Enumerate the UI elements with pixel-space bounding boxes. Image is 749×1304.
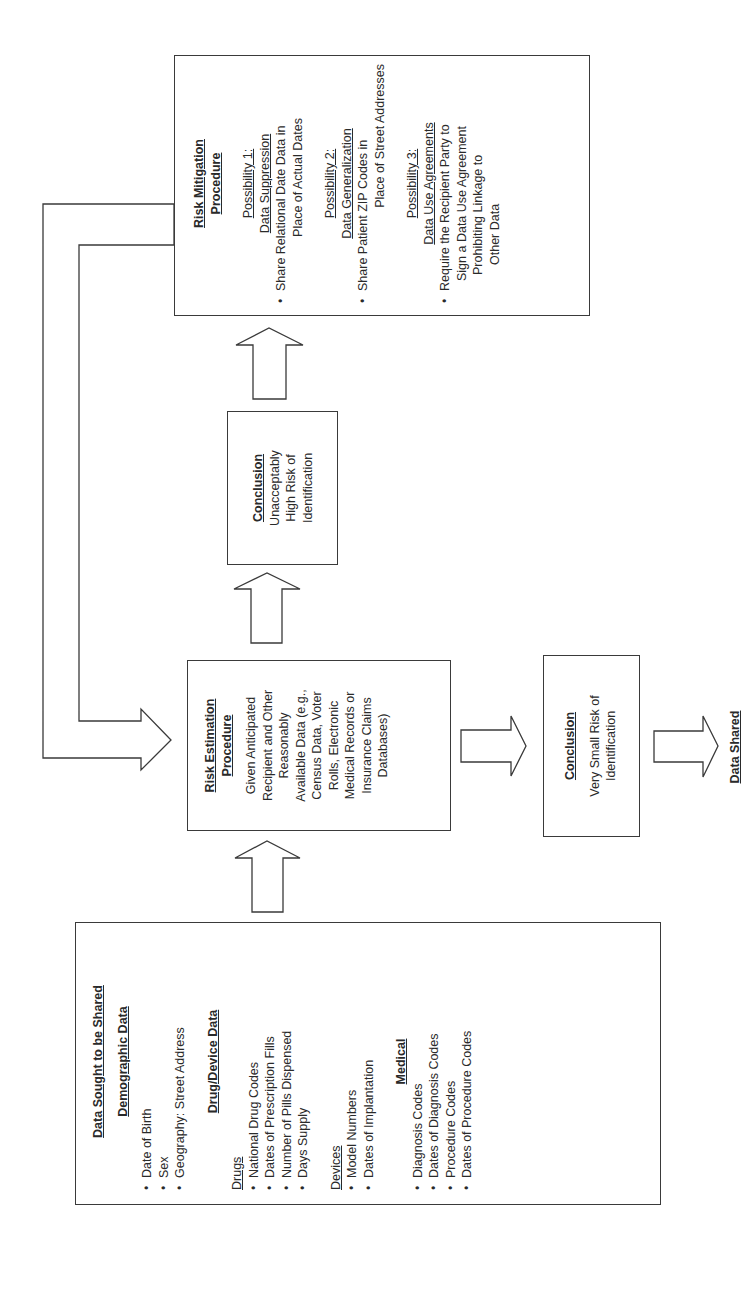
list-item: Sex <box>156 933 173 1190</box>
list-item: Dates of Implantation <box>361 933 378 1190</box>
risk-estimation-line: Databases) <box>375 667 392 824</box>
data-shared-label: Data Shared <box>728 697 742 797</box>
list-item: Number of Pills Dispensed <box>279 933 296 1190</box>
conclusion-high-risk-box: Conclusion Unacceptably High Risk of Ide… <box>227 411 338 565</box>
arrow-high-to-mitigation <box>236 328 303 399</box>
risk-mitigation-title-2: Procedure <box>208 64 225 303</box>
risk-estimation-title-1: Risk Estimation <box>202 667 219 824</box>
drugs-subheading: Drugs <box>229 933 246 1190</box>
possibility-3-label: Possibility 3: <box>404 64 421 303</box>
conclusion-low-line: Identification <box>603 660 620 832</box>
risk-estimation-title-2: Procedure <box>219 667 236 824</box>
possibility-1-label: Possibility 1: <box>240 64 257 303</box>
list-item: Dates of Diagnosis Codes <box>426 933 443 1190</box>
list-item: Share Relational Date Data in Place of A… <box>273 64 306 303</box>
arrow-source-to-estimation <box>235 841 300 912</box>
bullet-line: Sign a Data Use Agreement <box>455 126 469 291</box>
risk-estimation-line: Reasonably <box>276 667 293 824</box>
arrow-estimation-to-low <box>461 716 526 776</box>
list-item: Date of Birth <box>139 933 156 1190</box>
list-item: Model Numbers <box>344 933 361 1190</box>
risk-estimation-line: Medical Records or <box>342 667 359 824</box>
list-item: Procedure Codes <box>443 933 460 1190</box>
conclusion-high-line: Identification <box>300 416 317 560</box>
risk-estimation-box: Risk Estimation Procedure Given Anticipa… <box>187 660 451 831</box>
bullet-line: Prohibiting Linkage to <box>471 155 485 291</box>
list-item: Dates of Prescription Fills <box>262 933 279 1190</box>
risk-estimation-line: Census Data, Voter <box>309 667 326 824</box>
bullet-line: Require the Recipient Party to <box>438 124 452 291</box>
arrow-low-to-shared <box>654 716 718 777</box>
data-sought-box: Data Sought to be Shared Demographic Dat… <box>75 922 661 1205</box>
list-item: Geography: Street Address <box>172 933 189 1190</box>
conclusion-high-line: Unacceptably <box>267 416 284 560</box>
list-item: Share Patient ZIP Codes in Place of Stre… <box>355 64 388 303</box>
arrow-estimation-to-high <box>234 573 300 643</box>
bullet-line: Place of Street Addresses <box>372 64 389 291</box>
list-item: Days Supply <box>295 933 312 1190</box>
list-item: Diagnosis Codes <box>410 933 427 1190</box>
list-item: National Drug Codes <box>246 933 263 1190</box>
bullet-line: Place of Actual Dates <box>290 64 307 291</box>
risk-estimation-line: Available Data (e.g., <box>293 667 310 824</box>
conclusion-high-title: Conclusion <box>250 416 267 560</box>
bullet-line: Share Relational Date Data in <box>274 126 288 291</box>
demographic-list: Date of Birth Sex Geography: Street Addr… <box>139 933 189 1190</box>
bullet-line: Share Patient ZIP Codes in <box>356 140 370 291</box>
possibility-2-name: Data Generalization <box>339 64 356 303</box>
medical-list: Diagnosis Codes Dates of Diagnosis Codes… <box>410 933 476 1190</box>
arrow-feedback-loop <box>43 204 174 770</box>
demographic-heading: Demographic Data <box>115 933 132 1190</box>
bullet-line: Other Data <box>488 204 502 291</box>
drugs-list: National Drug Codes Dates of Prescriptio… <box>246 933 312 1190</box>
data-sought-title: Data Sought to be Shared <box>90 933 107 1190</box>
possibility-2-list: Share Patient ZIP Codes in Place of Stre… <box>355 64 388 303</box>
risk-estimation-line: Rolls, Electronic <box>326 667 343 824</box>
list-item: Require the Recipient Party to Sign a Da… <box>437 64 503 303</box>
possibility-1-list: Share Relational Date Data in Place of A… <box>273 64 306 303</box>
devices-subheading: Devices <box>328 933 345 1190</box>
risk-estimation-line: Recipient and Other <box>260 667 277 824</box>
risk-mitigation-title-1: Risk Mitigation <box>191 64 208 303</box>
risk-estimation-line: Given Anticipated <box>243 667 260 824</box>
possibility-3-list: Require the Recipient Party to Sign a Da… <box>437 64 503 303</box>
medical-heading: Medical <box>393 933 410 1190</box>
list-item: Dates of Procedure Codes <box>459 933 476 1190</box>
conclusion-low-risk-box: Conclusion Very Small Risk of Identifica… <box>543 655 640 837</box>
conclusion-high-line: High Risk of <box>283 416 300 560</box>
risk-estimation-line: Insurance Claims <box>359 667 376 824</box>
conclusion-low-line: Very Small Risk of <box>587 660 604 832</box>
devices-list: Model Numbers Dates of Implantation <box>344 933 377 1190</box>
possibility-1-name: Data Suppression <box>257 64 274 303</box>
flowchart-rotated: Data Sought to be Shared Demographic Dat… <box>0 0 749 1304</box>
possibility-3-name: Data Use Agreements <box>421 64 438 303</box>
drug-device-heading: Drug/Device Data <box>205 933 222 1190</box>
risk-mitigation-box: Risk Mitigation Procedure Possibility 1:… <box>174 55 590 316</box>
conclusion-low-title: Conclusion <box>562 660 579 832</box>
possibility-2-label: Possibility 2: <box>322 64 339 303</box>
